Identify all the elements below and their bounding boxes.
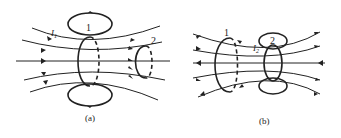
current-label-a: I1 — [50, 28, 57, 39]
coil-1-b — [215, 38, 238, 92]
caption-a: (a) — [85, 113, 95, 123]
figure-a: 1 2 I1 (a) — [16, 11, 170, 123]
coil-2-label-b: 2 — [270, 35, 275, 46]
coil-2-a — [136, 46, 153, 78]
figure-b: 1 2 I2 (b) — [193, 27, 325, 126]
coil-2-label-a: 2 — [151, 35, 156, 46]
coil-1-label-b: 1 — [224, 27, 229, 38]
current-label-b: I2 — [252, 43, 259, 54]
field-lines-a — [16, 26, 170, 100]
coil-1-label-a: 1 — [86, 22, 91, 33]
diagram: 1 2 I1 (a) 1 2 I2 (b) — [0, 0, 341, 138]
caption-b: (b) — [259, 116, 270, 126]
